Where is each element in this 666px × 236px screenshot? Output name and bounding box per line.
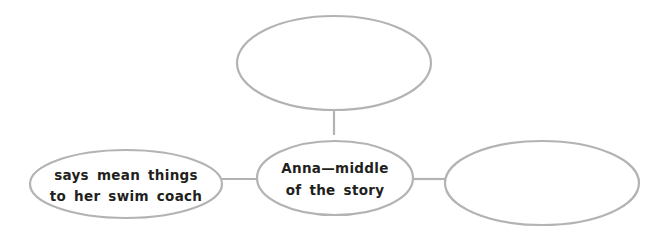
center-bubble — [257, 141, 413, 215]
node-center: Anna—middle of the story — [257, 141, 413, 215]
center-bubble-line-2: of the story — [286, 182, 385, 198]
node-right — [445, 141, 639, 225]
center-bubble-line-1: Anna—middle — [281, 160, 388, 176]
left-bubble-line-2: to her swim coach — [50, 188, 203, 204]
node-top — [237, 16, 431, 110]
left-bubble — [30, 150, 222, 218]
left-bubble-line-1: says mean things — [54, 167, 198, 183]
web-organizer-diagram: says mean things to her swim coach Anna—… — [0, 0, 666, 236]
node-left: says mean things to her swim coach — [30, 150, 222, 218]
right-bubble — [445, 141, 639, 225]
top-bubble — [237, 16, 431, 110]
